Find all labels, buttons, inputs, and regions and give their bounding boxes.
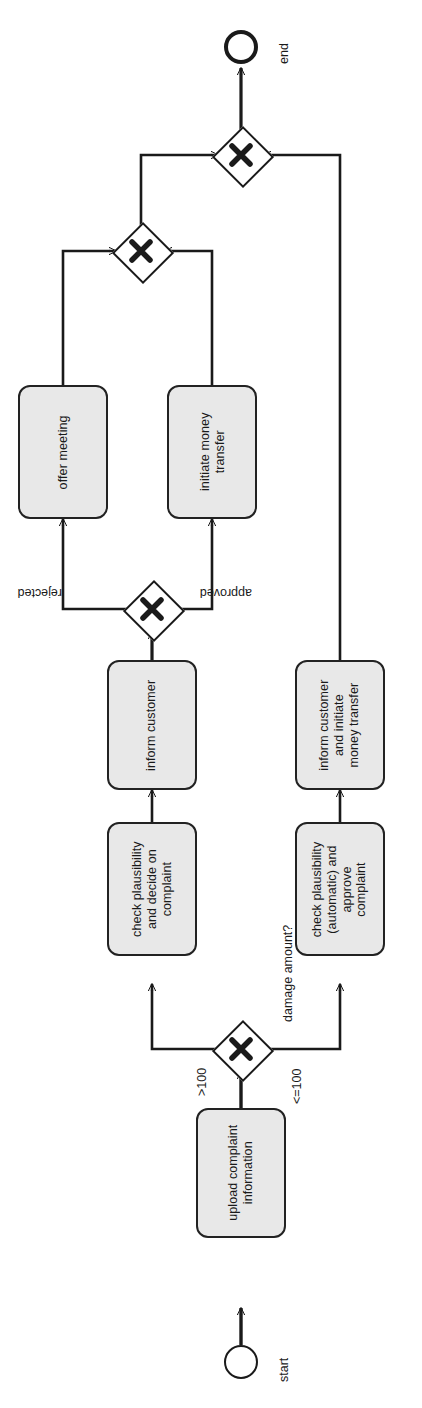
end-event bbox=[224, 30, 258, 64]
task-label: offer meeting bbox=[56, 415, 71, 489]
flow-label-greater-than-100: >100 bbox=[195, 1068, 209, 1096]
flow-label-less-equal-100: <=100 bbox=[290, 1069, 304, 1104]
task-label: inform customer bbox=[145, 679, 160, 770]
end-event-label: end bbox=[277, 43, 291, 64]
exclusive-gateway-merge-final bbox=[218, 132, 264, 178]
gateway-x-icon bbox=[218, 132, 264, 178]
gateway-label-damage-amount: damage amount? bbox=[281, 925, 295, 1022]
flow-label-rejected: rejected bbox=[18, 586, 62, 600]
task-check-plausibility-automatic-and-approve[interactable]: check plausibility (automatic) and appro… bbox=[295, 822, 385, 956]
gateway-x-icon bbox=[118, 228, 164, 274]
task-inform-customer[interactable]: inform customer bbox=[107, 660, 197, 790]
start-event bbox=[224, 1345, 258, 1379]
gateway-x-icon bbox=[129, 586, 175, 632]
task-offer-meeting[interactable]: offer meeting bbox=[18, 385, 108, 519]
exclusive-gateway-merge-upper bbox=[118, 228, 164, 274]
task-check-plausibility-and-decide[interactable]: check plausibility and decide on complai… bbox=[107, 822, 197, 956]
task-label: upload complaint information bbox=[226, 1125, 256, 1221]
task-label: initiate money transfer bbox=[197, 413, 227, 492]
task-inform-customer-and-initiate-money-transfer[interactable]: inform customer and initiate money trans… bbox=[295, 660, 385, 790]
task-label: check plausibility (automatic) and appro… bbox=[311, 841, 370, 937]
start-event-label: start bbox=[277, 1358, 291, 1382]
flow-label-approved: approved bbox=[200, 586, 252, 600]
bpmn-diagram-canvas: end offer meeting initiate money transfe… bbox=[0, 0, 422, 1408]
gateway-x-icon bbox=[218, 1026, 264, 1072]
exclusive-gateway-damage-amount bbox=[218, 1026, 264, 1072]
exclusive-gateway-decision-outcome bbox=[129, 586, 175, 632]
task-upload-complaint-information[interactable]: upload complaint information bbox=[196, 1108, 286, 1238]
task-initiate-money-transfer[interactable]: initiate money transfer bbox=[167, 385, 257, 519]
task-label: check plausibility and decide on complai… bbox=[130, 841, 174, 937]
task-label: inform customer and initiate money trans… bbox=[318, 679, 362, 770]
